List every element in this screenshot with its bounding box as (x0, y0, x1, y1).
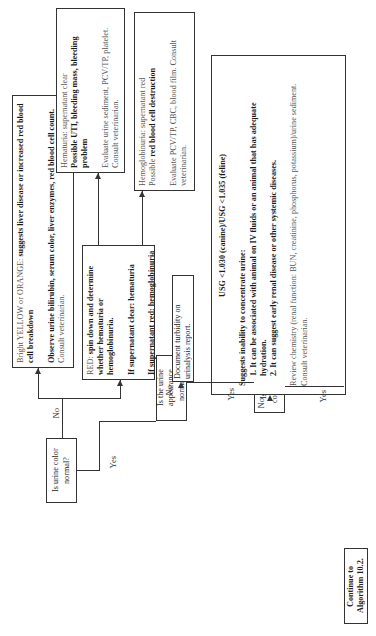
terminal-continue: Continue to Algorithm 10.2. (344, 548, 368, 624)
hematuria-action: Evaluate urine sediment, PCV/TP, platele… (101, 28, 120, 168)
red-if-clear: If supernatant clear: hematuria (127, 264, 136, 375)
label-q1-no: No (51, 408, 61, 418)
connector-q1-no-stem (62, 398, 63, 438)
hemoglobinuria-action: Evaluate PCV/TP, CBC, blood film. Consul… (169, 40, 188, 186)
red-lead-plain: RED: (86, 354, 95, 375)
arrow-to-yellow (35, 368, 41, 374)
connector-q2-yes-c (207, 382, 254, 383)
hematuria-line1: Hematuria: supernatant clear (60, 73, 69, 168)
decision-urine-color: Is urine color normal? (46, 438, 77, 503)
label-q3-no: No (256, 398, 266, 408)
yellow-action-bold: Observe urine bilirubin, serum color, li… (47, 109, 56, 363)
hemoglobinuria-line2-plain: Possible (148, 157, 157, 186)
outcome-hemoglobinuria: Hemoglobinuria: supernatant red Possible… (134, 12, 195, 191)
outcome-red: RED: spin down and determine whether hem… (82, 245, 155, 380)
yellow-lead-plain: Bright YELLOW or ORANGE: (16, 257, 25, 363)
yellow-action-plain: Consult veterinarian. (57, 294, 66, 363)
connector-q1-yes-b (99, 421, 100, 471)
arrow-to-hematuria (95, 173, 101, 179)
outcome-hematuria: Hematuria: supernatant clear Possible UT… (56, 8, 125, 173)
hemoglobinuria-line1: Hemoglobinuria: supernatant red (138, 78, 147, 186)
outcome-usg: USG <1.030 (canine)/USG <1.035 (feline) … (211, 55, 346, 395)
connector-red-to-hematuria (98, 173, 99, 245)
usg-point2: 2. It can suggest early renal disease or… (269, 160, 279, 386)
label-q2-yes: Yes (226, 388, 236, 400)
hematuria-line2: Possible UTI, bleeding mass, bleeding pr… (70, 37, 89, 168)
usg-intro: Suggests inability to concentrate urine: (238, 250, 247, 386)
label-q3-yes: Yes (318, 390, 328, 402)
connector-q1-yes-a (77, 470, 99, 471)
connector-split (38, 398, 121, 399)
label-q2-no: No (164, 385, 174, 395)
arrow-to-hemoglobinuria (139, 191, 145, 197)
outcome-turbidity: Document turbidity on urinalysis report. (172, 275, 194, 382)
red-if-red: If supernatant red: hemoglobinuria (147, 251, 156, 375)
hemoglobinuria-line2-bold: red blood cell destruction (148, 68, 157, 157)
label-q1-yes: Yes (108, 456, 118, 468)
usg-point1: 1. It can be associated with animal on I… (249, 64, 269, 386)
connector-red-to-hemoglobinuria (142, 191, 143, 245)
connector-q3-yes-c (310, 386, 344, 387)
arrow-to-turbidity (178, 382, 184, 388)
usg-action: Review chemistry (renal function: BUN, c… (289, 84, 308, 386)
decision-urine-color-text: Is urine color normal? (47, 439, 76, 502)
turbidity-text: Document turbidity on urinalysis report. (173, 278, 193, 379)
connector-q3-yes-a (285, 386, 310, 387)
connector-q1-yes-c (99, 421, 156, 422)
terminal-continue-text: Continue to Algorithm 10.2. (345, 549, 367, 623)
usg-title: USG <1.030 (canine)/USG <1.035 (feline) (218, 64, 228, 386)
arrow-to-usg (267, 395, 273, 401)
arrow-to-red (117, 380, 123, 386)
connector-q2-yes-a (187, 382, 207, 383)
